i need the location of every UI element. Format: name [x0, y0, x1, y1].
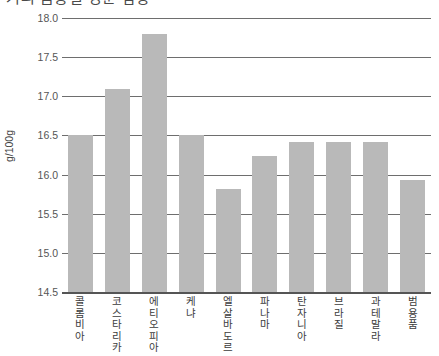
- y-tick-label: 15.5: [24, 208, 58, 220]
- bar: [105, 89, 130, 292]
- bar: [400, 180, 425, 292]
- bar: [142, 34, 167, 292]
- bar: [216, 189, 241, 292]
- x-axis-line: [62, 292, 431, 294]
- y-tick-label: 17.0: [24, 90, 58, 102]
- x-tick-label: 케냐: [184, 296, 198, 319]
- x-tick-label: 코스타리카: [110, 296, 124, 354]
- y-axis-label: g/100g: [3, 106, 15, 186]
- y-axis-ticks: 14.515.015.516.016.517.017.518.0: [18, 18, 58, 292]
- x-tick-label: 과테말라: [369, 296, 383, 342]
- bar: [179, 135, 204, 292]
- x-tick-label: 파나마: [258, 296, 272, 331]
- x-tick-label: 에티오피아: [147, 296, 161, 354]
- plot-area: [62, 18, 431, 292]
- bar: [68, 135, 93, 292]
- y-tick-label: 14.5: [24, 286, 58, 298]
- x-tick-label: 콜롬비아: [73, 296, 87, 342]
- gridline: [62, 18, 431, 19]
- x-tick-label: 엘살바도르: [221, 296, 235, 354]
- x-tick-label: 탄자니아: [295, 296, 309, 342]
- bar-chart: g/100g 14.515.015.516.016.517.017.518.0 …: [0, 0, 439, 356]
- y-tick-label: 17.5: [24, 51, 58, 63]
- bar: [326, 142, 351, 292]
- bar: [363, 142, 388, 292]
- x-tick-label: 브라질: [332, 296, 346, 331]
- y-tick-label: 16.0: [24, 169, 58, 181]
- bar: [289, 142, 314, 292]
- y-tick-label: 15.0: [24, 247, 58, 259]
- x-axis-labels: 콜롬비아코스타리카에티오피아케냐엘살바도르파나마탄자니아브라질과테말라범용품: [62, 296, 431, 356]
- x-tick-label: 범용품: [406, 296, 420, 331]
- y-tick-label: 16.5: [24, 129, 58, 141]
- y-tick-label: 18.0: [24, 12, 58, 24]
- bar: [252, 156, 277, 292]
- gridline: [62, 57, 431, 58]
